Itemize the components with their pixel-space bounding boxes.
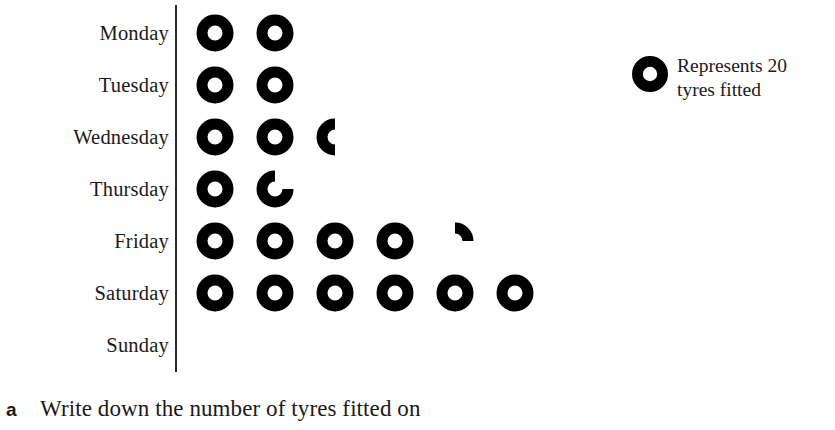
row-symbols: [196, 170, 556, 208]
ring-icon: [196, 222, 234, 260]
row-label-monday: Monday: [99, 22, 169, 45]
ring-icon: [316, 222, 354, 260]
ring-icon: [632, 56, 668, 92]
pictogram-row: Monday: [0, 10, 620, 56]
partial-ring-icon: [316, 118, 354, 156]
row-label-thursday: Thursday: [90, 178, 169, 201]
question-line: a Write down the number of tyres fitted …: [6, 396, 421, 422]
ring-icon: [196, 66, 234, 104]
chart-legend: Represents 20 tyres fitted: [632, 54, 787, 102]
row-label-saturday: Saturday: [95, 282, 169, 305]
ring-icon: [436, 274, 474, 312]
ring-icon: [376, 222, 414, 260]
partial-ring-icon: [436, 222, 474, 260]
ring-icon: [256, 222, 294, 260]
row-symbols: [196, 326, 556, 364]
pictogram-row: Friday: [0, 218, 620, 264]
pictogram-chart: MondayTuesdayWednesdayThursdayFridaySatu…: [0, 0, 620, 380]
row-label-sunday: Sunday: [106, 334, 169, 357]
row-label-wednesday: Wednesday: [73, 126, 169, 149]
row-label-friday: Friday: [114, 230, 169, 253]
pictogram-row: Tuesday: [0, 62, 620, 108]
row-symbols: [196, 118, 556, 156]
ring-icon: [196, 14, 234, 52]
row-symbols: [196, 14, 556, 52]
ring-icon: [196, 118, 234, 156]
legend-label-line1: Represents 20: [677, 54, 787, 78]
ring-icon: [316, 274, 354, 312]
ring-icon: [256, 14, 294, 52]
ring-icon: [196, 170, 234, 208]
ring-icon: [256, 118, 294, 156]
partial-ring-icon: [256, 170, 294, 208]
row-symbols: [196, 66, 556, 104]
pictogram-row: Saturday: [0, 270, 620, 316]
ring-icon: [196, 274, 234, 312]
ring-icon: [496, 274, 534, 312]
ring-icon: [376, 274, 414, 312]
ring-icon: [256, 66, 294, 104]
row-symbols: [196, 274, 556, 312]
question-letter: a: [6, 399, 40, 421]
pictogram-row: Sunday: [0, 322, 620, 368]
legend-label: Represents 20 tyres fitted: [677, 54, 787, 102]
pictogram-row: Wednesday: [0, 114, 620, 160]
legend-label-line2: tyres fitted: [677, 78, 787, 102]
row-symbols: [196, 222, 556, 260]
ring-icon: [256, 274, 294, 312]
question-text: Write down the number of tyres fitted on: [40, 396, 421, 422]
row-label-tuesday: Tuesday: [99, 74, 169, 97]
pictogram-row: Thursday: [0, 166, 620, 212]
